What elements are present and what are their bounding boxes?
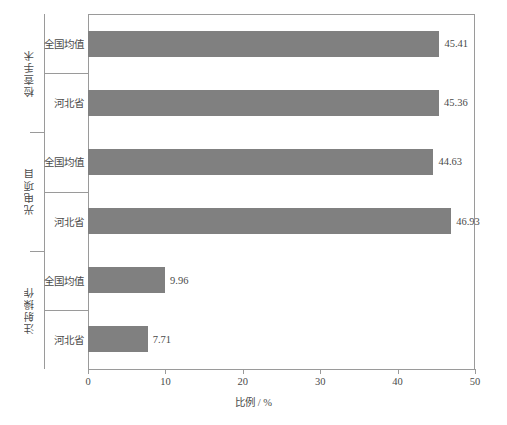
category-label-cell: 全国均值 <box>44 251 88 310</box>
category-label-cell: 全国均值 <box>44 132 88 191</box>
x-tick-label: 0 <box>85 376 90 387</box>
category-label: 河北省 <box>54 95 88 110</box>
x-tick-label: 40 <box>392 376 403 387</box>
bar-chart: 检查手术光电项目注射操作 全国均值河北省全国均值河北省全国均值河北省 45.41… <box>0 0 507 425</box>
category-label-cell: 河北省 <box>44 192 88 251</box>
group-label-cell: 注射操作 <box>14 251 44 369</box>
bar <box>88 326 148 352</box>
category-label-cell: 全国均值 <box>44 14 88 73</box>
x-tick-label: 10 <box>160 376 171 387</box>
x-tick-mark <box>165 369 166 374</box>
bar <box>88 208 451 234</box>
group-tick <box>30 251 44 252</box>
x-tick-mark <box>475 369 476 374</box>
x-tick-label: 30 <box>315 376 326 387</box>
x-tick-mark <box>398 369 399 374</box>
category-label: 河北省 <box>54 332 88 347</box>
category-tick <box>44 192 88 193</box>
bar <box>88 267 165 293</box>
category-label: 全国均值 <box>44 273 88 288</box>
bars-layer: 45.4145.3644.6346.939.967.71 <box>88 14 475 369</box>
x-axis-line <box>88 369 475 370</box>
bar <box>88 31 439 57</box>
bar-value-label: 45.36 <box>439 90 468 116</box>
group-label: 检查手术 <box>22 49 37 97</box>
x-tick-label: 50 <box>470 376 481 387</box>
x-tick-mark <box>88 369 89 374</box>
category-label-cell: 河北省 <box>44 310 88 369</box>
bar <box>88 149 433 175</box>
bar <box>88 90 439 116</box>
bar-value-label: 44.63 <box>433 149 462 175</box>
x-tick-label: 20 <box>238 376 249 387</box>
x-tick-mark <box>320 369 321 374</box>
category-label: 全国均值 <box>44 36 88 51</box>
category-label: 全国均值 <box>44 154 88 169</box>
x-axis-title: 比例 / % <box>0 394 507 409</box>
group-label: 注射操作 <box>22 286 37 334</box>
group-tick <box>30 132 44 133</box>
bar-value-label: 46.93 <box>451 208 480 234</box>
group-label: 光电项目 <box>22 167 37 215</box>
group-label-cell: 检查手术 <box>14 14 44 132</box>
bar-value-label: 7.71 <box>148 326 171 352</box>
bar-value-label: 45.41 <box>439 31 468 57</box>
group-axis-labels: 检查手术光电项目注射操作 <box>14 14 44 369</box>
category-tick <box>44 310 88 311</box>
group-label-cell: 光电项目 <box>14 132 44 250</box>
x-tick-mark <box>243 369 244 374</box>
category-label: 河北省 <box>54 214 88 229</box>
category-label-cell: 河北省 <box>44 73 88 132</box>
bar-value-label: 9.96 <box>165 267 188 293</box>
category-tick <box>44 73 88 74</box>
